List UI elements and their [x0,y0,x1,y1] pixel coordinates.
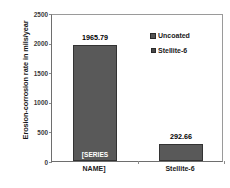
bar-value-label: 1965.79 [59,33,131,42]
y-axis-tick-label: 2500 [22,11,48,18]
bar-chart: Erosion-corrosion rate in mils/year 0500… [0,0,230,188]
y-axis-tick-mark [49,162,52,163]
y-axis-tick-label: 0 [22,159,48,166]
solid-square-icon [151,48,156,53]
legend-item[interactable]: Uncoated [150,29,222,42]
y-axis-tick-labels: 05001000150020002500 [22,14,48,162]
bar-inner-label: [SERIES [74,151,116,159]
x-axis-tick-label: NAME] [49,164,139,173]
x-axis-tick-label: Stellite-6 [135,164,225,173]
patterned-square-icon [150,33,156,39]
x-axis-tick-labels: NAME]Stellite-6 [51,164,223,186]
chart-legend: UncoatedStellite-6 [150,29,222,59]
y-axis-tick-label: 2000 [22,40,48,47]
legend-label: Stellite-6 [158,46,187,55]
bar-group[interactable]: [SERIES1965.79 [73,15,117,161]
bar-value-label: 292.66 [145,132,217,141]
legend-item[interactable]: Stellite-6 [150,44,222,57]
y-axis-tick-label: 1500 [22,70,48,77]
y-axis-tick-label: 1000 [22,99,48,106]
bar[interactable]: [SERIES [73,45,117,161]
legend-label: Uncoated [158,31,190,40]
bar[interactable] [159,144,203,161]
y-axis-tick-label: 500 [22,129,48,136]
plot-area: [SERIES1965.79292.66 UncoatedStellite-6 [51,14,223,162]
